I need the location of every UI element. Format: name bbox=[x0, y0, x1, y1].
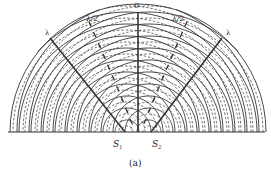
first-order-maximum-line-right bbox=[151, 38, 222, 132]
trough-arc bbox=[47, 30, 251, 132]
crest-arc bbox=[41, 24, 257, 132]
interference-diagram: 0 λ/2 λ/2 λ λ S1 S2 (a) bbox=[0, 0, 271, 173]
nodal-line-left-tick bbox=[121, 97, 123, 102]
nodal-line-right-tick bbox=[175, 43, 177, 48]
nodal-line-left-tick bbox=[94, 32, 96, 37]
caption: (a) bbox=[129, 158, 141, 168]
nodal-line-left-tick bbox=[98, 43, 100, 48]
label-half-wave-right: λ/2 bbox=[172, 14, 184, 23]
label-center-line: 0 bbox=[134, 1, 139, 10]
label-half-wave-left: λ/2 bbox=[86, 14, 98, 23]
nodal-line-right-tick bbox=[180, 32, 182, 37]
label-full-wave-right: λ bbox=[226, 29, 231, 37]
label-source-2: S2 bbox=[152, 139, 161, 150]
trough-arc bbox=[97, 102, 157, 132]
crest-arc bbox=[176, 10, 259, 132]
nodal-line-right-tick bbox=[166, 65, 168, 70]
nodal-line-left-tick bbox=[103, 54, 105, 59]
crest-arc bbox=[17, 10, 100, 132]
label-source-1: S1 bbox=[113, 139, 122, 150]
label-full-wave-left: λ bbox=[45, 29, 50, 37]
nodal-line-right-tick bbox=[153, 97, 155, 102]
nodal-line-left-tick bbox=[126, 108, 128, 113]
nodal-line-right-tick bbox=[171, 54, 173, 59]
